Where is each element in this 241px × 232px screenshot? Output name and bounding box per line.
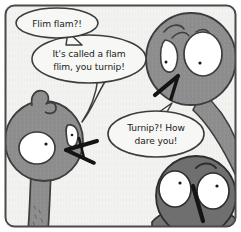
bubble-3-body — [108, 111, 204, 157]
bird-top-right-eye-right — [184, 32, 222, 76]
bubble-2-italic-word: flim, — [53, 62, 73, 72]
comic-panel: Turnip?! How dare you! It's called a fla… — [0, 0, 241, 232]
bubble-2-line-1: It's called a flam — [52, 49, 125, 59]
bird-bottom-right-eye-right — [197, 173, 229, 209]
bubble-2-line-2: flim, you turnip! — [53, 62, 124, 72]
bubble-1-line-1: Flim flam?! — [32, 19, 82, 29]
bird-bottom-right-pupil-right — [215, 184, 218, 187]
bird-left-pupil-big — [44, 142, 47, 145]
bird-left-eye-big — [19, 132, 55, 164]
bird-top-right-pupil-left — [165, 61, 168, 64]
comic-artwork: Turnip?! How dare you! It's called a fla… — [0, 0, 241, 232]
bubble-2-line-2-rest: you turnip! — [73, 62, 125, 72]
bubble-2-body — [32, 35, 146, 83]
bubble-3-line-1: Turnip?! How — [126, 123, 185, 133]
bird-top-right-pupil-right — [198, 61, 201, 64]
bubble-3-line-2: dare you! — [135, 136, 178, 146]
bird-bottom-right-pupil-left — [178, 181, 181, 184]
bird-bottom-right-eye-left — [159, 171, 191, 207]
bird-left-pupil-small — [71, 134, 74, 137]
